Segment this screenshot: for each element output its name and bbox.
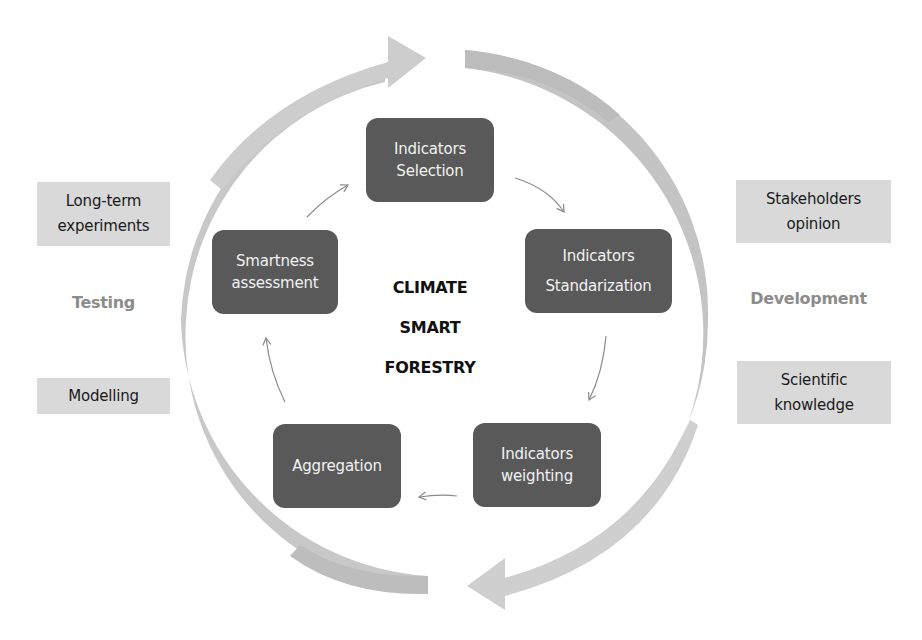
step-label-line: Indicators bbox=[562, 241, 634, 271]
step-label-line: Indicators bbox=[501, 443, 573, 465]
arrow-aggregation-to-smartness-icon bbox=[266, 338, 285, 402]
step-indicators-selection: Indicators Selection bbox=[366, 118, 494, 202]
step-label-line: weighting bbox=[501, 465, 573, 487]
center-title-line: SMART bbox=[360, 308, 500, 348]
source-label-line: Stakeholders bbox=[766, 187, 861, 212]
center-title-line: FORESTRY bbox=[360, 348, 500, 388]
phase-label-development: Development bbox=[736, 289, 881, 308]
source-label-line: experiments bbox=[58, 214, 150, 239]
step-label-line: assessment bbox=[232, 272, 319, 294]
step-label-line: Standarization bbox=[545, 271, 651, 301]
source-label-line: knowledge bbox=[774, 393, 854, 418]
arrow-smartness-to-selection-icon bbox=[307, 185, 348, 217]
step-label-line: Indicators bbox=[394, 138, 466, 160]
source-modelling: Modelling bbox=[37, 378, 170, 414]
step-indicators-standardization: Indicators Standarization bbox=[525, 229, 672, 313]
source-stakeholders-opinion: Stakeholders opinion bbox=[736, 180, 891, 243]
step-label-line: Smartness bbox=[236, 250, 314, 272]
step-label-line: Aggregation bbox=[292, 455, 382, 477]
phase-label-testing: Testing bbox=[37, 293, 170, 312]
source-scientific-knowledge: Scientific knowledge bbox=[737, 361, 891, 424]
development-cycle-arrow-icon bbox=[465, 50, 708, 610]
arrow-selection-to-standardization-icon bbox=[515, 178, 564, 212]
step-aggregation: Aggregation bbox=[273, 424, 401, 508]
step-smartness-assessment: Smartness assessment bbox=[212, 230, 338, 314]
climate-smart-forestry-diagram: Indicators Selection Indicators Standari… bbox=[0, 0, 922, 640]
source-label-line: Scientific bbox=[781, 368, 847, 393]
step-indicators-weighting: Indicators weighting bbox=[473, 423, 601, 507]
step-label-line: Selection bbox=[396, 160, 463, 182]
arrow-weighting-to-aggregation-icon bbox=[419, 495, 457, 497]
source-label-line: Long-term bbox=[66, 189, 142, 214]
source-label-line: Modelling bbox=[68, 384, 139, 409]
center-title-line: CLIMATE bbox=[360, 268, 500, 308]
arrow-standardization-to-weighting-icon bbox=[589, 336, 606, 400]
center-title: CLIMATE SMART FORESTRY bbox=[360, 268, 500, 388]
source-long-term-experiments: Long-term experiments bbox=[37, 182, 170, 246]
source-label-line: opinion bbox=[787, 212, 841, 237]
